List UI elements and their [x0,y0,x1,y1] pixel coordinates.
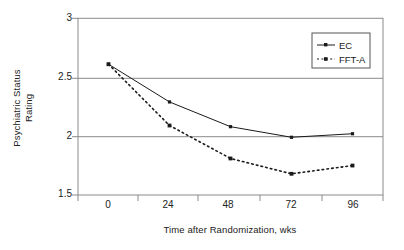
data-point-marker [290,136,293,139]
data-point-marker [168,124,172,128]
legend-marker-ec [324,43,327,46]
y-axis-ticks [72,18,78,195]
data-point-marker [168,100,171,103]
data-point-marker [229,125,232,128]
series-fft-a [107,62,355,175]
data-point-marker [351,164,355,168]
series-ec [107,63,354,139]
data-point-marker [107,62,111,66]
data-series-layer [107,62,355,175]
plot-area: EC FFT-A [0,0,404,250]
data-point-marker [290,172,294,176]
chart-container: Psychiatric Status Rating Time after Ran… [0,0,404,250]
legend-label-ffta: FFT-A [339,54,366,65]
data-point-marker [351,132,354,135]
legend-label-ec: EC [339,40,352,51]
legend-marker-ffta [324,57,328,61]
legend: EC FFT-A [312,33,370,68]
x-axis-ticks [78,195,383,201]
data-point-marker [229,157,233,161]
